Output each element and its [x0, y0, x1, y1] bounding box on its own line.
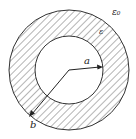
label-epsilon0: ε₀	[112, 8, 120, 17]
label-epsilon: ε	[99, 28, 103, 36]
label-a: a	[84, 56, 90, 66]
label-b: b	[30, 120, 36, 130]
coaxial-diagram	[0, 0, 136, 139]
